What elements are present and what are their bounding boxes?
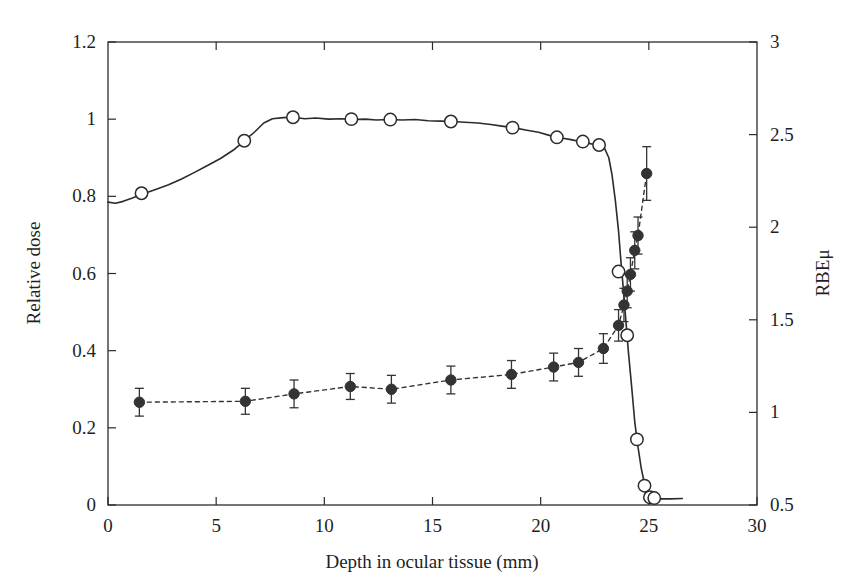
dose-marker-open-circle xyxy=(621,329,633,341)
rbe-marker-filled-circle xyxy=(598,343,608,353)
y2-tick-label: 0.5 xyxy=(770,494,794,515)
y-tick-label: 0 xyxy=(87,494,97,515)
y-tick-label: 1.2 xyxy=(72,31,96,52)
x-tick-label: 30 xyxy=(748,515,767,536)
rbe-marker-filled-circle xyxy=(548,362,558,372)
rbe-marker-filled-circle xyxy=(633,230,643,240)
x-axis-label: Depth in ocular tissue (mm) xyxy=(325,551,538,573)
dose-marker-open-circle xyxy=(287,111,299,123)
y2-tick-label: 1.5 xyxy=(770,309,794,330)
rbe-marker-filled-circle xyxy=(573,357,583,367)
y2-tick-label: 2.5 xyxy=(770,124,794,145)
y2-tick-label: 2 xyxy=(770,216,780,237)
x-tick-label: 15 xyxy=(423,515,442,536)
dose-marker-open-circle xyxy=(631,433,643,445)
dose-marker-open-circle xyxy=(638,480,650,492)
dose-marker-open-circle xyxy=(612,265,624,277)
rbe-marker-filled-circle xyxy=(345,381,355,391)
x-tick-label: 20 xyxy=(531,515,550,536)
dose-marker-open-circle xyxy=(445,115,457,127)
y-tick-label: 0.8 xyxy=(72,185,96,206)
y-tick-label: 0.6 xyxy=(72,263,96,284)
dose-marker-open-circle xyxy=(593,139,605,151)
dose-marker-open-circle xyxy=(648,492,660,504)
rbe-marker-filled-circle xyxy=(240,396,250,406)
y-axis-right-label: RBEμ xyxy=(812,249,833,296)
chart-background xyxy=(0,0,856,582)
y2-tick-label: 1 xyxy=(770,401,780,422)
dose-marker-open-circle xyxy=(506,121,518,133)
y-tick-label: 1 xyxy=(87,108,97,129)
y2-tick-label: 3 xyxy=(770,31,780,52)
dose-marker-open-circle xyxy=(577,135,589,147)
rbe-marker-filled-circle xyxy=(386,384,396,394)
y-axis-left-label: Relative dose xyxy=(23,222,44,325)
dose-marker-open-circle xyxy=(135,187,147,199)
y-tick-label: 0.4 xyxy=(72,340,96,361)
x-tick-label: 10 xyxy=(315,515,334,536)
rbe-marker-filled-circle xyxy=(134,397,144,407)
rbe-marker-filled-circle xyxy=(641,168,651,178)
dose-marker-open-circle xyxy=(384,113,396,125)
rbe-marker-filled-circle xyxy=(506,369,516,379)
y-tick-label: 0.2 xyxy=(72,417,96,438)
x-tick-label: 25 xyxy=(639,515,658,536)
x-tick-label: 0 xyxy=(103,515,113,536)
x-tick-label: 5 xyxy=(211,515,221,536)
rbe-marker-filled-circle xyxy=(289,389,299,399)
dose-marker-open-circle xyxy=(551,131,563,143)
dose-marker-open-circle xyxy=(238,135,250,147)
rbe-marker-filled-circle xyxy=(446,375,456,385)
rbe-marker-filled-circle xyxy=(625,269,635,279)
depth-dose-rbe-chart: 051015202530 00.20.40.60.811.2 0.511.522… xyxy=(0,0,856,582)
figure-container: 051015202530 00.20.40.60.811.2 0.511.522… xyxy=(0,0,856,582)
dose-marker-open-circle xyxy=(345,113,357,125)
